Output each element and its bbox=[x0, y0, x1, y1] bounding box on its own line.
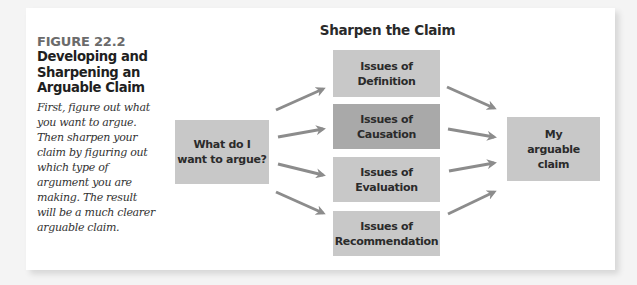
arrow-icon bbox=[278, 129, 323, 137]
issue-box-evaluation: Issues of Evaluation bbox=[333, 157, 440, 202]
arrow-icon bbox=[276, 192, 323, 213]
start-box: What do I want to argue? bbox=[175, 120, 269, 184]
arrow-icon bbox=[449, 163, 494, 171]
arrow-icon bbox=[448, 192, 494, 214]
arrow-icon bbox=[447, 87, 494, 108]
arrow-icon bbox=[276, 89, 323, 110]
issue-box-causation: Issues of Causation bbox=[333, 104, 440, 149]
end-box: My arguable claim bbox=[507, 117, 600, 181]
issue-box-definition: Issues of Definition bbox=[333, 50, 440, 97]
arrow-icon bbox=[278, 164, 323, 175]
issue-box-recommendation: Issues of Recommendation bbox=[333, 211, 440, 256]
arrow-icon bbox=[448, 129, 494, 137]
